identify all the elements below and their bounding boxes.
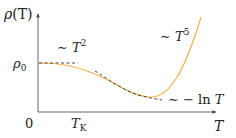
tk-tick-label: TK: [71, 116, 87, 133]
x-axis-label: T: [214, 118, 225, 134]
origin-label: 0: [25, 116, 33, 131]
t2-annotation: ∼ T2: [57, 38, 86, 55]
y-axis-label: ρ(T): [3, 6, 33, 22]
lnT-annotation: ∼ − ln T: [168, 92, 225, 107]
t5-annotation: ∼ T5: [160, 27, 190, 44]
resistivity-chart: ρ(T) ρ0 ∼ T2 ∼ T5 ∼ − ln T 0 TK T: [0, 0, 236, 138]
rho0-label: ρ0: [12, 56, 27, 73]
lnT-asymptote-dashed: [95, 71, 162, 100]
